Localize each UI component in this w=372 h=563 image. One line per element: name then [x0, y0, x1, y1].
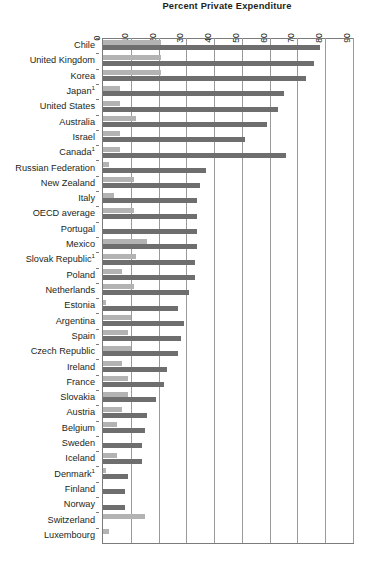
bar-light	[103, 162, 109, 167]
bar-row	[103, 191, 353, 206]
bar-row	[103, 466, 353, 481]
bar-light	[103, 300, 106, 305]
bar-row	[103, 436, 353, 451]
category-tick	[96, 359, 99, 360]
bar-row	[103, 283, 353, 298]
bar-dark	[103, 244, 197, 249]
category-label: United States	[40, 101, 95, 111]
bar-light	[103, 392, 128, 397]
category-tick	[96, 313, 99, 314]
bar-light	[103, 86, 120, 91]
category-label: Belgium	[62, 423, 95, 433]
bar-row	[103, 359, 353, 374]
bar-row	[103, 329, 353, 344]
bar-row	[103, 390, 353, 405]
category-label: United Kingdom	[30, 55, 95, 65]
category-label: Korea	[70, 71, 95, 81]
category-label: Australia	[59, 117, 95, 127]
bar-light	[103, 55, 161, 60]
bar-row	[103, 160, 353, 175]
category-tick	[96, 130, 99, 131]
category-tick	[96, 84, 99, 85]
category-label: Denmark1	[54, 469, 95, 479]
category-tick	[96, 298, 99, 299]
category-label: Estonia	[64, 300, 95, 310]
category-label: Mexico	[66, 239, 95, 249]
bar-row	[103, 145, 353, 160]
category-tick	[96, 466, 99, 467]
category-tick	[96, 38, 99, 39]
bar-row	[103, 482, 353, 497]
category-tick	[96, 69, 99, 70]
bar-light	[103, 40, 161, 45]
plot-area	[102, 38, 354, 544]
category-tick	[96, 222, 99, 223]
category-label: Canada1	[59, 147, 95, 157]
bar-dark	[103, 122, 267, 127]
chart-figure: Percent Private Expenditure 010203040506…	[0, 0, 372, 563]
category-label: Italy	[78, 193, 95, 203]
category-tick	[96, 160, 99, 161]
bar-light	[103, 422, 117, 427]
bar-dark	[103, 183, 200, 188]
category-tick	[96, 329, 99, 330]
category-label: Argentina	[56, 316, 95, 326]
category-label: Portugal	[61, 224, 95, 234]
category-tick	[96, 344, 99, 345]
bar-row	[103, 252, 353, 267]
bar-row	[103, 206, 353, 221]
bar-dark	[103, 45, 320, 50]
bar-row	[103, 38, 353, 53]
bar-dark	[103, 382, 164, 387]
bar-row	[103, 512, 353, 527]
bar-light	[103, 193, 114, 198]
bar-row	[103, 528, 353, 543]
category-label: Ireland	[67, 362, 95, 372]
category-tick	[96, 283, 99, 284]
bar-dark	[103, 459, 142, 464]
category-label: Norway	[64, 499, 95, 509]
bar-light	[103, 70, 161, 75]
category-tick	[96, 99, 99, 100]
category-label: Japan1	[67, 86, 96, 96]
bar-row	[103, 69, 353, 84]
category-label: OECD average	[33, 208, 95, 218]
category-label: Netherlands	[45, 285, 95, 295]
bar-dark	[103, 336, 181, 341]
category-label: Iceland	[65, 453, 95, 463]
bar-rows	[103, 38, 353, 543]
bar-row	[103, 451, 353, 466]
category-label: France	[66, 377, 95, 387]
category-label: Switzerland	[48, 515, 96, 525]
bar-row	[103, 344, 353, 359]
bar-row	[103, 268, 353, 283]
bar-light	[103, 177, 134, 182]
bar-dark	[103, 397, 156, 402]
bar-row	[103, 222, 353, 237]
bar-dark	[103, 91, 284, 96]
footnote-marker: 1	[92, 252, 95, 259]
bar-row	[103, 99, 353, 114]
category-axis-labels: ChileUnited KingdomKoreaJapan1United Sta…	[0, 38, 99, 543]
bar-row	[103, 130, 353, 145]
gridline-90	[353, 38, 354, 543]
category-tick	[96, 375, 99, 376]
bar-light	[103, 453, 117, 458]
bar-dark	[103, 137, 245, 142]
x-axis-tick-labels: 0102030405060708090	[0, 14, 372, 38]
bar-row	[103, 237, 353, 252]
category-tick	[96, 451, 99, 452]
category-tick	[96, 115, 99, 116]
category-tick	[96, 390, 99, 391]
category-label: Slovakia	[60, 392, 95, 402]
footnote-marker: 1	[92, 145, 95, 152]
category-label: Czech Republic	[31, 346, 95, 356]
bar-dark	[103, 474, 128, 479]
bar-dark	[103, 275, 195, 280]
bar-dark	[103, 306, 178, 311]
bar-dark	[103, 413, 147, 418]
bar-dark	[103, 367, 167, 372]
category-tick	[96, 53, 99, 54]
bar-dark	[103, 428, 145, 433]
category-tick	[96, 482, 99, 483]
